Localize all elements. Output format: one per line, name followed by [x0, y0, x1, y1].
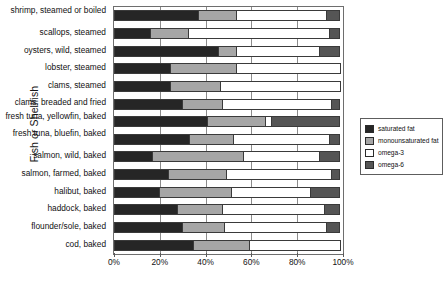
stacked-bar	[114, 187, 343, 198]
legend-item-label: omega-3	[378, 149, 404, 156]
legend-item[interactable]: saturated fat	[365, 123, 439, 134]
category-label: fresh tuna, bluefin, baked	[0, 129, 106, 138]
x-axis-tick-labels: 0%20%40%60%80%100%	[113, 257, 344, 271]
bar-segment-saturated-fat	[114, 204, 178, 215]
bar-segment-saturated-fat	[114, 28, 151, 39]
table-row	[114, 151, 343, 162]
category-label: scallops, steamed	[0, 28, 106, 37]
bar-segment-omega-3	[222, 99, 332, 110]
bar-segment-monounsaturated-fat	[193, 240, 250, 251]
bar-segment-saturated-fat	[114, 134, 190, 145]
category-label: shrimp, steamed or boiled	[0, 6, 106, 15]
category-label: oysters, wild, steamed	[0, 46, 106, 55]
bar-segment-monounsaturated-fat	[182, 99, 223, 110]
bar-segment-monounsaturated-fat	[189, 134, 235, 145]
x-tick-label: 40%	[186, 257, 226, 267]
category-label: salmon, farmed, baked	[0, 169, 106, 178]
bar-segment-omega-3	[220, 81, 341, 92]
category-label: clams, steamed	[0, 81, 106, 90]
x-tick-label: 20%	[140, 257, 180, 267]
bar-segment-saturated-fat	[114, 187, 160, 198]
bar-segment-omega-6	[319, 46, 340, 57]
stacked-bar	[114, 28, 343, 39]
bar-segment-omega-3	[236, 46, 321, 57]
bar-segment-omega-3	[224, 222, 327, 233]
bar-segment-omega-3	[233, 134, 329, 145]
x-tick-label: 0%	[94, 257, 134, 267]
bar-segment-omega-6	[319, 151, 340, 162]
legend-swatch-icon	[365, 137, 374, 145]
x-tick-mark	[206, 253, 207, 257]
bar-segment-monounsaturated-fat	[150, 28, 189, 39]
table-row	[114, 46, 343, 57]
table-row	[114, 169, 343, 180]
stacked-bar-chart: Fish or Shellfish shrimp, steamed or boi…	[0, 0, 445, 286]
bar-segment-monounsaturated-fat	[182, 222, 226, 233]
bar-segment-saturated-fat	[114, 116, 208, 127]
bar-segment-saturated-fat	[114, 10, 199, 21]
category-label: flounder/sole, baked	[0, 222, 106, 231]
stacked-bar	[114, 116, 343, 127]
table-row	[114, 204, 343, 215]
bar-segment-saturated-fat	[114, 151, 153, 162]
category-label: cod, baked	[0, 240, 106, 249]
table-row	[114, 187, 343, 198]
bar-segment-saturated-fat	[114, 46, 219, 57]
category-label: fresh tuna, yellowfin, baked	[0, 112, 106, 121]
stacked-bar	[114, 222, 343, 233]
table-row	[114, 222, 343, 233]
bar-segment-omega-3	[236, 63, 341, 74]
table-row	[114, 116, 343, 127]
legend-swatch-icon	[365, 125, 374, 133]
bar-segment-omega-3	[231, 187, 311, 198]
table-row	[114, 134, 343, 145]
legend-item-label: monounsaturated fat	[378, 137, 438, 144]
bar-segment-saturated-fat	[114, 240, 194, 251]
bar-segment-saturated-fat	[114, 81, 171, 92]
x-tick-mark	[251, 253, 252, 257]
legend-swatch-icon	[365, 149, 374, 157]
bar-segment-omega-6	[331, 99, 340, 110]
legend-item[interactable]: monounsaturated fat	[365, 135, 439, 146]
bar-segment-omega-3	[222, 204, 325, 215]
legend-item[interactable]: omega-3	[365, 147, 439, 158]
bar-segment-omega-3	[226, 169, 331, 180]
bar-segment-omega-6	[326, 10, 340, 21]
stacked-bar	[114, 63, 343, 74]
bar-segment-omega-6	[326, 222, 340, 233]
bar-segment-omega-6	[324, 204, 340, 215]
x-tick-label: 100%	[323, 257, 363, 267]
table-row	[114, 10, 343, 21]
x-tick-label: 60%	[231, 257, 271, 267]
bar-segment-saturated-fat	[114, 63, 171, 74]
stacked-bar	[114, 81, 343, 92]
bar-segment-saturated-fat	[114, 99, 183, 110]
y-axis-category-labels: shrimp, steamed or boiledscallops, steam…	[0, 6, 110, 255]
bar-segment-omega-6	[271, 116, 340, 127]
bar-segment-monounsaturated-fat	[159, 187, 232, 198]
bar-segment-monounsaturated-fat	[207, 116, 267, 127]
bar-segment-omega-6	[331, 169, 340, 180]
legend-swatch-icon	[365, 161, 374, 169]
table-row	[114, 99, 343, 110]
stacked-bar	[114, 99, 343, 110]
legend-item[interactable]: omega-6	[365, 159, 439, 170]
bar-segment-omega-6	[329, 134, 340, 145]
bar-segment-monounsaturated-fat	[198, 10, 237, 21]
bar-segment-monounsaturated-fat	[177, 204, 223, 215]
stacked-bar	[114, 204, 343, 215]
stacked-bar	[114, 134, 343, 145]
table-row	[114, 28, 343, 39]
table-row	[114, 240, 343, 251]
bar-segment-monounsaturated-fat	[170, 81, 220, 92]
bar-segment-omega-3	[236, 10, 328, 21]
legend-item-label: saturated fat	[378, 125, 415, 132]
table-row	[114, 63, 343, 74]
stacked-bar	[114, 169, 343, 180]
bar-rows	[114, 7, 343, 254]
bar-segment-saturated-fat	[114, 169, 169, 180]
stacked-bar	[114, 46, 343, 57]
bar-segment-omega-3	[249, 240, 341, 251]
category-label: lobster, steamed	[0, 63, 106, 72]
table-row	[114, 81, 343, 92]
